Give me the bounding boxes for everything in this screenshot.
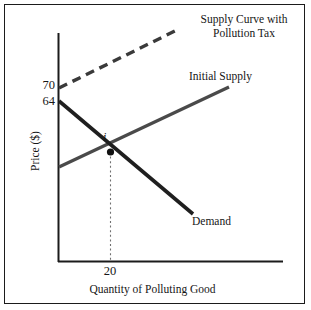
supply-with-tax-label-line2: Pollution Tax <box>184 26 304 40</box>
x-tick-label-20: 20 <box>90 265 130 278</box>
equilibrium-point-marker <box>107 148 114 155</box>
supply-with-tax-label-line1: Supply Curve with <box>201 13 288 25</box>
initial-supply-curve <box>59 87 229 167</box>
y-tick-label-64: 64 <box>21 95 55 108</box>
supply-with-tax-curve <box>59 29 179 88</box>
chart-canvas <box>0 0 311 310</box>
supply-with-tax-label: Supply Curve with Pollution Tax <box>184 12 304 40</box>
x-axis-title: Quantity of Polluting Good <box>40 283 265 295</box>
y-axis-title: Price ($) <box>29 111 41 191</box>
supply-demand-pollution-tax-figure: 70 64 20 Price ($) Quantity of Polluting… <box>0 0 311 310</box>
demand-label: Demand <box>192 215 231 229</box>
initial-supply-label: Initial Supply <box>189 70 252 84</box>
equilibrium-point-label: i <box>103 130 106 145</box>
y-tick-label-70: 70 <box>21 79 55 92</box>
